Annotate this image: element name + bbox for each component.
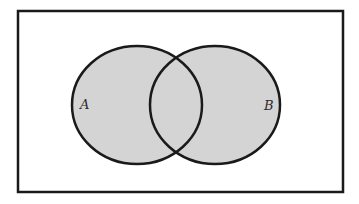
set-a-label: A bbox=[79, 97, 89, 112]
set-b-label: B bbox=[263, 98, 274, 113]
union-fill bbox=[72, 46, 280, 164]
venn-diagram: A B bbox=[0, 0, 359, 204]
